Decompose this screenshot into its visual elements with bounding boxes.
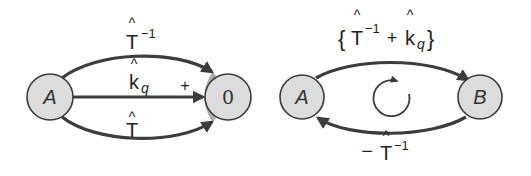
node-a-left: A bbox=[27, 74, 73, 120]
svg-text:−: − bbox=[361, 140, 373, 162]
svg-text:{: { bbox=[338, 26, 345, 51]
svg-text:T: T bbox=[380, 142, 392, 164]
svg-text:0: 0 bbox=[222, 86, 234, 108]
svg-text:q: q bbox=[417, 36, 425, 52]
node-0: 0 bbox=[205, 74, 251, 120]
svg-text:T: T bbox=[126, 31, 138, 53]
label-t-inverse-top: ^ T −1 bbox=[126, 15, 156, 53]
svg-text:k: k bbox=[129, 71, 140, 93]
svg-text:−1: −1 bbox=[141, 26, 156, 41]
diagram-canvas: A 0 ^ T −1 ^ k q + ^ T A bbox=[0, 0, 531, 176]
svg-text:A: A bbox=[42, 86, 56, 108]
clockwise-cycle-icon bbox=[373, 80, 409, 116]
svg-text:+: + bbox=[387, 28, 398, 48]
svg-text:^: ^ bbox=[407, 7, 414, 23]
right-diagram: A B { ^ T −1 + ^ k q } − ^ T −1 bbox=[280, 7, 502, 164]
svg-text:−1: −1 bbox=[394, 138, 409, 153]
svg-text:T: T bbox=[351, 27, 363, 49]
edge-a-to-b bbox=[316, 63, 468, 81]
svg-text:B: B bbox=[473, 86, 486, 108]
svg-text:k: k bbox=[405, 27, 416, 49]
svg-text:^: ^ bbox=[129, 15, 136, 31]
svg-text:−1: −1 bbox=[365, 21, 380, 36]
label-kq: ^ k q bbox=[129, 56, 149, 96]
label-t-bottom: ^ T bbox=[126, 109, 138, 141]
svg-text:^: ^ bbox=[354, 7, 361, 23]
plus-sign: + bbox=[180, 77, 189, 94]
svg-text:q: q bbox=[141, 80, 149, 96]
left-diagram: A 0 ^ T −1 ^ k q + ^ T bbox=[27, 15, 251, 141]
svg-text:A: A bbox=[294, 86, 308, 108]
svg-text:^: ^ bbox=[131, 56, 138, 72]
svg-text:T: T bbox=[126, 119, 138, 141]
edge-b-to-a bbox=[318, 117, 466, 133]
label-t-inverse-plus-kq: { ^ T −1 + ^ k q } bbox=[338, 7, 434, 52]
node-b: B bbox=[458, 75, 502, 119]
svg-text:}: } bbox=[427, 26, 434, 51]
node-a-right: A bbox=[280, 75, 324, 119]
